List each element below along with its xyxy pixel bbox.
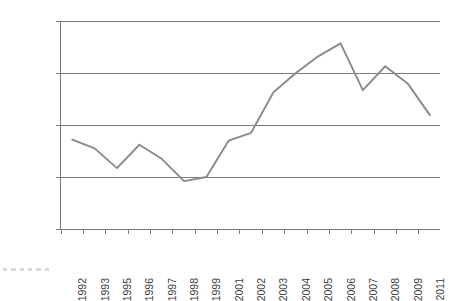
data-series-line xyxy=(72,43,430,181)
x-axis-tick-label: 1993 xyxy=(99,278,111,301)
x-axis-tick-label: 2002 xyxy=(255,278,267,301)
x-axis-tick-label: 1995 xyxy=(121,278,133,301)
x-axis-tick-label: 2006 xyxy=(345,278,357,301)
gridlines xyxy=(60,21,440,177)
decorative-dot xyxy=(11,268,15,271)
x-axis-tick-label: 2001 xyxy=(233,278,245,301)
x-axis-tick-label: 2009 xyxy=(412,278,424,301)
x-axis-tick-label: 1996 xyxy=(143,278,155,301)
decorative-dot xyxy=(3,268,7,271)
x-axis-tick-label: 1992 xyxy=(76,278,88,301)
x-axis-tick-label: 2011 xyxy=(434,278,446,301)
x-axis-tick-label: 2004 xyxy=(300,278,312,301)
x-axis-tick-label: 1998 xyxy=(188,278,200,301)
decorative-dot xyxy=(45,268,49,271)
x-axis-tick-label: 2003 xyxy=(277,278,289,301)
x-axis-tick-label: 1999 xyxy=(210,278,222,301)
series-polyline xyxy=(72,43,430,181)
x-axis-tick-label: 2008 xyxy=(389,278,401,301)
x-axis-tick-marks xyxy=(61,229,419,234)
decorative-dot xyxy=(20,268,24,271)
x-axis-tick-label: 2005 xyxy=(322,278,334,301)
decorative-dot xyxy=(36,268,40,271)
x-axis-tick-label: 2007 xyxy=(367,278,379,301)
x-axis-tick-labels: 1992199319951996199719981999200120022003… xyxy=(0,236,460,281)
decorative-dots xyxy=(3,266,49,272)
decorative-dot xyxy=(28,268,32,271)
x-axis-tick-label: 1997 xyxy=(166,278,178,301)
